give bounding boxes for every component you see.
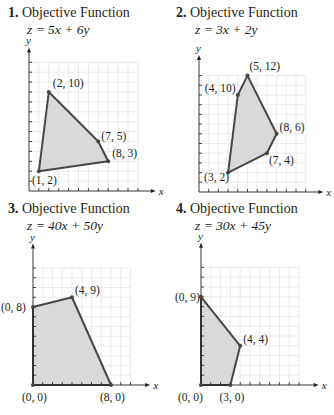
y-axis-arrow-icon <box>197 55 201 60</box>
vertex-label: (0, 8) <box>1 301 26 314</box>
vertex-label: (0, 9) <box>175 291 200 304</box>
vertex-point <box>96 140 100 144</box>
vertex-point <box>246 74 250 78</box>
vertex-label: (0, 0) <box>22 391 47 404</box>
x-axis-arrow-icon <box>151 189 156 193</box>
vertex-point <box>109 383 113 387</box>
vertex-label: (4, 9) <box>75 284 100 297</box>
vertex-label: (0, 0) <box>178 391 203 404</box>
x-axis-label: x <box>325 186 331 198</box>
vertex-point <box>37 169 41 173</box>
x-axis-label: x <box>158 185 164 197</box>
y-axis-label: y <box>25 34 31 46</box>
feasible-region-graphs: xy(2, 10)(7, 5)(8, 3)(1, 2) xy(5, 12)(8,… <box>0 0 334 415</box>
vertex-label: (2, 10) <box>53 77 84 90</box>
graph-3: xy(0, 8)(4, 9)(8, 0)(0, 0) <box>1 231 158 405</box>
y-axis-arrow-icon <box>27 47 31 52</box>
feasible-region <box>33 297 111 385</box>
vertex-label: (8, 6) <box>280 121 305 134</box>
y-axis-label: y <box>195 42 201 54</box>
vertex-label: (7, 5) <box>101 130 126 143</box>
vertex-label: (3, 2) <box>204 171 229 184</box>
x-axis-arrow-icon <box>314 383 319 387</box>
vertex-point <box>106 159 110 163</box>
vertex-label: (4, 4) <box>243 333 268 346</box>
vertex-label: (8, 0) <box>100 391 125 404</box>
y-axis-label: y <box>197 230 203 242</box>
vertex-label: (7, 4) <box>269 154 294 167</box>
x-axis-arrow-icon <box>145 383 150 387</box>
vertex-label: (8, 3) <box>112 147 137 160</box>
y-axis-arrow-icon <box>31 244 35 249</box>
vertex-point <box>47 90 51 94</box>
vertex-point <box>228 383 232 387</box>
vertex-point <box>236 93 240 97</box>
vertex-point <box>31 305 35 309</box>
x-axis-label: x <box>152 379 158 391</box>
vertex-point <box>238 344 242 348</box>
graph-1: xy(2, 10)(7, 5)(8, 3)(1, 2) <box>25 34 164 197</box>
vertex-label: (1, 2) <box>32 174 57 187</box>
vertex-label: (4, 10) <box>205 82 236 95</box>
vertex-point <box>275 132 279 136</box>
graph-2: xy(5, 12)(8, 6)(7, 4)(3, 2)(4, 10) <box>195 42 331 198</box>
vertex-label: (3, 0) <box>219 391 244 404</box>
x-axis-arrow-icon <box>318 190 323 194</box>
vertex-point <box>199 383 203 387</box>
vertex-point <box>31 383 35 387</box>
y-axis-label: y <box>29 231 35 243</box>
x-axis-label: x <box>321 379 327 391</box>
y-axis-arrow-icon <box>199 243 203 248</box>
graph-4: xy(0, 9)(4, 4)(3, 0)(0, 0) <box>175 230 327 404</box>
vertex-point <box>70 295 74 299</box>
vertex-label: (5, 12) <box>250 60 281 73</box>
